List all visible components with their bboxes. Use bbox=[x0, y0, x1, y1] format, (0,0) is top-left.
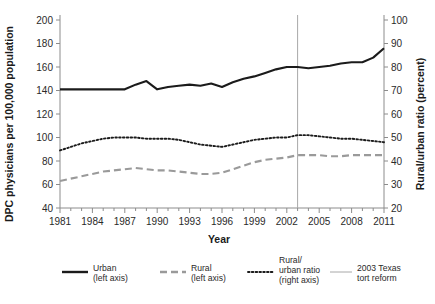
x-tick-label: 1984 bbox=[81, 216, 104, 227]
x-tick-label: 1987 bbox=[114, 216, 137, 227]
y-tick-label-left: 200 bbox=[36, 15, 53, 26]
legend-label-3-line-3: (right axis) bbox=[279, 275, 319, 285]
x-tick-label: 2002 bbox=[276, 216, 299, 227]
x-tick-label: 2005 bbox=[308, 216, 331, 227]
legend-label-1-line-1: Urban bbox=[93, 263, 117, 273]
x-tick-label: 1981 bbox=[49, 216, 72, 227]
legend-label-3-line-1: Rural/ bbox=[279, 255, 303, 265]
figure-background bbox=[0, 0, 435, 304]
y-tick-label-left: 60 bbox=[42, 179, 54, 190]
legend-label-2-line-2: (left axis) bbox=[191, 273, 226, 283]
y-tick-label-right: 60 bbox=[391, 109, 403, 120]
x-tick-label: 1990 bbox=[146, 216, 169, 227]
legend-label-3-line-2: urban ratio bbox=[279, 265, 320, 275]
x-tick-label: 1996 bbox=[211, 216, 234, 227]
legend-label-4-line-2: tort reform bbox=[357, 273, 397, 283]
x-tick-label: 2011 bbox=[373, 216, 395, 227]
legend-label-1-line-2: (left axis) bbox=[93, 273, 128, 283]
x-tick-label: 1999 bbox=[243, 216, 266, 227]
y-tick-label-right: 50 bbox=[391, 132, 403, 143]
y-tick-label-right: 90 bbox=[391, 38, 403, 49]
y-tick-label-left: 160 bbox=[36, 62, 53, 73]
y-tick-label-right: 70 bbox=[391, 85, 403, 96]
y-axis-right-title: Rural/urban ratio (percent) bbox=[414, 58, 426, 190]
y-axis-left-title: DPC physicians per 100,000 population bbox=[3, 26, 15, 222]
y-tick-label-right: 80 bbox=[391, 62, 403, 73]
legend-label-2-line-1: Rural bbox=[191, 263, 212, 273]
y-tick-label-right: 30 bbox=[391, 179, 403, 190]
y-tick-label-left: 40 bbox=[42, 203, 54, 214]
y-tick-label-right: 20 bbox=[391, 203, 403, 214]
y-tick-label-left: 100 bbox=[36, 132, 53, 143]
y-tick-label-left: 120 bbox=[36, 109, 53, 120]
y-tick-label-left: 140 bbox=[36, 85, 53, 96]
y-tick-label-right: 40 bbox=[391, 156, 403, 167]
x-tick-label: 2008 bbox=[340, 216, 363, 227]
x-tick-label: 1993 bbox=[178, 216, 201, 227]
y-tick-label-left: 180 bbox=[36, 38, 53, 49]
x-axis-title: Year bbox=[208, 233, 230, 245]
y-tick-label-left: 80 bbox=[42, 156, 54, 167]
y-tick-label-right: 100 bbox=[391, 15, 408, 26]
legend-label-4-line-1: 2003 Texas bbox=[357, 263, 401, 273]
chart-figure: 406080100120140160180200 203040506070809… bbox=[0, 0, 435, 304]
